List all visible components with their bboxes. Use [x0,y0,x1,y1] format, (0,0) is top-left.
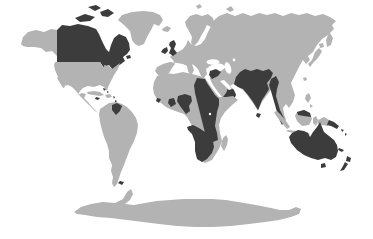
region-ireland [161,47,168,54]
region-sulawesi [313,116,318,126]
region-iceland [162,26,171,32]
region-south-america [99,102,138,187]
world-map [0,0,373,239]
region-australia [289,122,338,160]
region-jamaica [95,97,100,100]
region-philippines-2 [310,104,313,108]
region-philippines-1 [305,93,311,103]
region-bahamas-2 [107,91,109,93]
region-nz-south [340,162,348,171]
region-falklands [118,181,124,185]
region-antarctica [74,189,301,227]
region-newfoundland [126,55,131,59]
region-sri-lanka [256,113,261,118]
region-canada-arctic-2 [100,9,114,17]
region-nz-north [346,156,351,162]
region-great-britain [169,40,177,56]
region-madagascar [221,135,228,151]
region-antilles-1 [113,96,115,99]
region-alaska [21,29,61,56]
world-map-svg [0,0,373,239]
region-solomons-1 [341,129,344,132]
region-novaya-zemlya [226,6,234,12]
region-hispaniola [105,94,112,98]
region-tasmania [321,163,326,168]
lake-victoria-dot [209,113,211,115]
black-sea [207,59,220,65]
aral-sea [233,59,236,62]
region-solomons-2 [345,133,347,136]
great-lakes-dot-1 [104,65,106,67]
region-canada-arctic-4 [88,5,101,11]
region-svalbard [196,4,202,9]
region-canada-arctic-1 [75,14,95,22]
region-cuba [87,91,104,96]
region-taiwan [303,77,307,81]
region-japan-hokkaido [319,43,324,48]
region-india-pakistan [234,69,273,110]
region-new-caledonia [338,148,344,152]
region-papua-new-guinea [327,120,339,129]
